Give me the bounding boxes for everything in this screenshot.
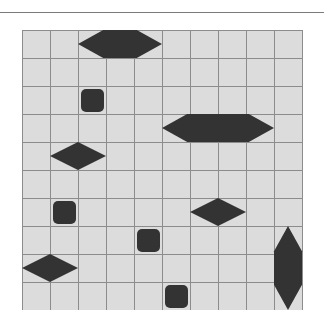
grid-cell[interactable] — [23, 87, 51, 115]
grid-cell[interactable] — [163, 87, 191, 115]
grid-cell[interactable] — [275, 171, 303, 199]
grid-cell[interactable] — [107, 255, 135, 283]
grid-cell[interactable] — [107, 87, 135, 115]
grid-cell[interactable] — [275, 59, 303, 87]
grid-cell[interactable] — [275, 87, 303, 115]
grid-cell[interactable] — [163, 199, 191, 227]
grid-cell[interactable] — [79, 199, 107, 227]
grid-cell[interactable] — [135, 199, 163, 227]
board-canvas[interactable] — [22, 30, 303, 310]
grid-cell[interactable] — [107, 115, 135, 143]
grid-cell[interactable] — [51, 283, 79, 311]
grid-cell[interactable] — [191, 227, 219, 255]
grid-cell[interactable] — [23, 59, 51, 87]
grid-cell[interactable] — [247, 227, 275, 255]
grid-cell[interactable] — [107, 227, 135, 255]
grid-cell[interactable] — [135, 255, 163, 283]
grid-cell[interactable] — [51, 115, 79, 143]
grid-cell[interactable] — [191, 31, 219, 59]
grid-cell[interactable] — [51, 171, 79, 199]
grid-cell[interactable] — [275, 115, 303, 143]
grid-cell[interactable] — [23, 227, 51, 255]
grid-cell[interactable] — [247, 171, 275, 199]
top-divider — [0, 12, 324, 13]
grid-cell[interactable] — [79, 283, 107, 311]
grid-cell[interactable] — [23, 143, 51, 171]
grid-cell[interactable] — [107, 199, 135, 227]
grid-cell[interactable] — [191, 59, 219, 87]
grid-cell[interactable] — [275, 31, 303, 59]
grid-cell[interactable] — [191, 87, 219, 115]
grid-cell[interactable] — [191, 283, 219, 311]
grid-cell[interactable] — [51, 87, 79, 115]
grid-cell[interactable] — [219, 283, 247, 311]
grid-cell[interactable] — [23, 115, 51, 143]
piece-square-1[interactable] — [81, 89, 104, 112]
grid-cell[interactable] — [135, 171, 163, 199]
piece-square-3[interactable] — [137, 229, 160, 252]
grid-cell[interactable] — [247, 283, 275, 311]
piece-square-4[interactable] — [165, 285, 188, 308]
grid-cell[interactable] — [51, 31, 79, 59]
game-board[interactable] — [22, 30, 303, 310]
grid-cell[interactable] — [219, 31, 247, 59]
grid-cell[interactable] — [247, 255, 275, 283]
grid-cell[interactable] — [163, 255, 191, 283]
grid-cell[interactable] — [135, 59, 163, 87]
grid-cell[interactable] — [51, 227, 79, 255]
grid-cell[interactable] — [23, 171, 51, 199]
grid-cell[interactable] — [107, 283, 135, 311]
grid-cell[interactable] — [135, 283, 163, 311]
grid-cell[interactable] — [163, 171, 191, 199]
grid-cell[interactable] — [219, 143, 247, 171]
grid-cell[interactable] — [219, 59, 247, 87]
grid-cell[interactable] — [107, 143, 135, 171]
piece-square-2[interactable] — [53, 201, 76, 224]
grid-cell[interactable] — [163, 59, 191, 87]
grid-cell[interactable] — [275, 143, 303, 171]
grid-cell[interactable] — [135, 115, 163, 143]
grid-cell[interactable] — [107, 59, 135, 87]
grid-cell[interactable] — [107, 171, 135, 199]
grid-cell[interactable] — [191, 255, 219, 283]
grid-cell[interactable] — [79, 227, 107, 255]
grid-cell[interactable] — [135, 87, 163, 115]
grid-cell[interactable] — [163, 143, 191, 171]
grid-cell[interactable] — [79, 115, 107, 143]
grid-cell[interactable] — [79, 59, 107, 87]
grid-cell[interactable] — [247, 199, 275, 227]
grid-cell[interactable] — [23, 199, 51, 227]
grid-cell[interactable] — [23, 283, 51, 311]
grid-cell[interactable] — [23, 31, 51, 59]
grid-cell[interactable] — [247, 59, 275, 87]
grid-cell[interactable] — [163, 31, 191, 59]
grid-cell[interactable] — [163, 227, 191, 255]
grid-cell[interactable] — [191, 171, 219, 199]
grid-cell[interactable] — [219, 227, 247, 255]
grid-cell[interactable] — [79, 171, 107, 199]
grid-cell[interactable] — [219, 171, 247, 199]
grid-cell[interactable] — [79, 255, 107, 283]
grid-cell[interactable] — [247, 31, 275, 59]
grid-cell[interactable] — [219, 255, 247, 283]
grid-cell[interactable] — [191, 143, 219, 171]
grid-cell[interactable] — [135, 143, 163, 171]
grid-cell[interactable] — [275, 199, 303, 227]
grid-cell[interactable] — [51, 59, 79, 87]
grid-cell[interactable] — [247, 143, 275, 171]
grid-cell[interactable] — [219, 87, 247, 115]
grid-cell[interactable] — [247, 87, 275, 115]
